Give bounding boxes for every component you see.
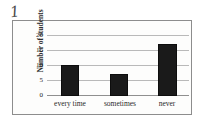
y-tick-label-20: 20 <box>27 32 43 39</box>
bar-never <box>158 44 177 96</box>
handwritten-question-number: 1 <box>9 2 33 21</box>
y-tick-label-0: 0 <box>27 92 43 99</box>
y-tick-label-15: 15 <box>27 47 43 54</box>
bar-sometimes <box>110 74 128 96</box>
x-tick-label-never: never <box>142 99 192 108</box>
y-axis-title-container: Number of students <box>15 29 27 105</box>
chart-frame: Number of students 20 15 10 5 0 every ti… <box>12 20 192 115</box>
bar-every-time <box>61 65 79 96</box>
plot-area: Number of students 20 15 10 5 0 every ti… <box>13 21 191 114</box>
y-tick-label-10: 10 <box>27 62 43 69</box>
x-tick-label-every-time: every time <box>43 99 97 108</box>
x-tick-label-sometimes: sometimes <box>93 99 147 108</box>
chart-screenshot: 1 Number of students 20 15 10 5 0 <box>0 0 206 124</box>
y-tick-label-5: 5 <box>27 77 43 84</box>
